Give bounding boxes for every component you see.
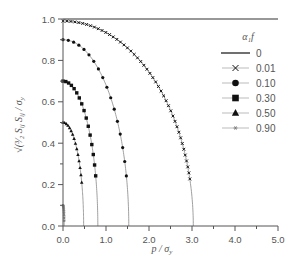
plot-curves [61,19,278,226]
x-tick-label: 0.0 [56,234,69,245]
legend-item: 0 [221,48,262,59]
legend: α₁f00.010.100.300.500.90 [221,31,276,134]
legend-label: 0 [256,48,262,59]
legend-label: 0.30 [256,93,276,104]
yield-surface-chart: 0.01.02.03.04.05.00.00.20.40.60.81.0 α₁f… [0,0,299,274]
legend-item: 0.10 [222,78,276,89]
x-tick-label: 3.0 [185,234,198,245]
y-tick-label: 0.4 [42,138,55,149]
legend-label: 0.01 [256,63,276,74]
legend-item: 0.30 [222,93,276,104]
legend-item: 0.90 [222,123,276,134]
x-axis-label: p / σy [151,243,174,256]
legend-label: 0.10 [256,78,276,89]
y-tick-label: 0.6 [42,96,55,107]
legend-title: α₁f [242,31,255,42]
legend-item: 0.50 [222,108,276,119]
y-tick-label: 0.8 [42,55,55,66]
series-0.01 [62,20,194,226]
x-tick-label: 4.0 [228,234,241,245]
axes: 0.01.02.03.04.05.00.00.20.40.60.81.0 [42,14,285,246]
legend-label: 0.90 [256,123,276,134]
series-0.30 [61,79,98,226]
y-axis-label: √(³⁄₂ Sij Sij / σy [13,96,26,152]
y-tick-label: 0.0 [42,221,55,232]
x-tick-label: 1.0 [99,234,112,245]
y-tick-label: 0.2 [42,179,55,190]
y-tick-label: 1.0 [42,14,55,25]
legend-label: 0.50 [256,108,276,119]
x-tick-label: 5.0 [271,234,284,245]
series-0.90 [62,204,66,226]
legend-item: 0.01 [222,63,276,74]
